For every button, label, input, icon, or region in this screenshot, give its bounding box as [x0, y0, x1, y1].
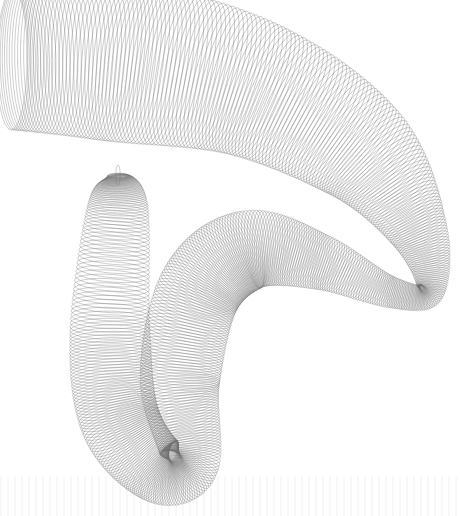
bleed-through-texture — [0, 476, 460, 516]
woven-ribbon-artwork — [0, 0, 460, 516]
